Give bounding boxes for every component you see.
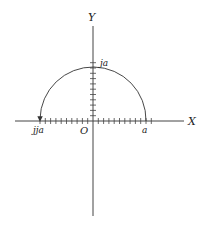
x-axis-label: X (187, 115, 197, 128)
point-ja-label: ja (98, 58, 108, 68)
complex-plane-diagram: Y X O a ja jja (0, 0, 204, 231)
y-axis-label: Y (88, 11, 97, 24)
point-jja-label: jja (31, 125, 44, 135)
point-a-label: a (142, 125, 147, 135)
origin-label: O (80, 125, 88, 136)
